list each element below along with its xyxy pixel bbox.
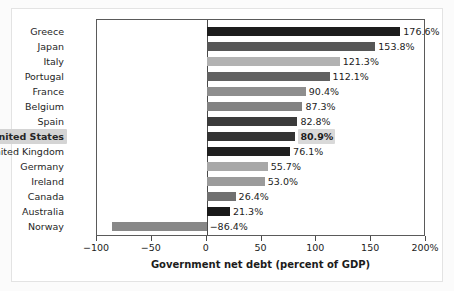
bar-row: Greece176.6% <box>97 24 424 39</box>
bar-portugal <box>207 72 330 81</box>
bar-row: Spain82.8% <box>97 114 424 129</box>
category-label-united-states: United States <box>0 129 67 144</box>
bar-greece <box>207 27 401 36</box>
bar-row: Australia21.3% <box>97 204 424 219</box>
bar-row: Canada26.4% <box>97 189 424 204</box>
category-label-ireland: Ireland <box>0 174 64 189</box>
x-tick-label: 200% <box>411 242 438 253</box>
category-label-germany: Germany <box>0 159 64 174</box>
bar-australia <box>207 207 230 216</box>
bar-row: Norway−86.4% <box>97 219 424 234</box>
category-label-greece: Greece <box>0 24 64 39</box>
bar-row: Portugal112.1% <box>97 69 424 84</box>
bar-row: Japan153.8% <box>97 39 424 54</box>
category-label-italy: Italy <box>0 54 64 69</box>
value-label-germany: 55.7% <box>271 159 301 174</box>
x-tick-label: −100 <box>83 242 109 253</box>
value-label-france: 90.4% <box>309 84 339 99</box>
value-label-belgium: 87.3% <box>305 99 335 114</box>
x-tick <box>206 236 207 241</box>
x-axis-title: Government net debt (percent of GDP) <box>96 259 425 270</box>
bar-germany <box>207 162 268 171</box>
value-label-australia: 21.3% <box>233 204 263 219</box>
value-label-canada: 26.4% <box>239 189 269 204</box>
bar-japan <box>207 42 376 51</box>
value-label-portugal: 112.1% <box>333 69 369 84</box>
bar-ireland <box>207 177 265 186</box>
x-tick-label: 100 <box>306 242 324 253</box>
x-tick-label: −50 <box>141 242 161 253</box>
value-label-united-states: 80.9% <box>298 129 335 144</box>
bar-italy <box>207 57 340 66</box>
bar-belgium <box>207 102 303 111</box>
bar-france <box>207 87 306 96</box>
category-label-australia: Australia <box>0 204 64 219</box>
bar-norway <box>112 222 207 231</box>
value-label-italy: 121.3% <box>343 54 379 69</box>
x-tick <box>370 236 371 241</box>
bar-row: United Kingdom76.1% <box>97 144 424 159</box>
category-label-norway: Norway <box>0 219 64 234</box>
x-tick <box>425 236 426 241</box>
bar-row: Germany55.7% <box>97 159 424 174</box>
bar-row: Belgium87.3% <box>97 99 424 114</box>
bar-spain <box>207 117 298 126</box>
value-label-norway: −86.4% <box>210 219 248 234</box>
bar-row: United States80.9% <box>97 129 424 144</box>
bar-row: Italy121.3% <box>97 54 424 69</box>
value-label-ireland: 53.0% <box>268 174 298 189</box>
bar-row: Ireland53.0% <box>97 174 424 189</box>
bar-row: France90.4% <box>97 84 424 99</box>
plot-area: Greece176.6%Japan153.8%Italy121.3%Portug… <box>96 19 425 236</box>
bar-united-kingdom <box>207 147 290 156</box>
bar-canada <box>207 192 236 201</box>
category-label-united-kingdom: United Kingdom <box>0 144 64 159</box>
category-label-japan: Japan <box>0 39 64 54</box>
chart-card: Greece176.6%Japan153.8%Italy121.3%Portug… <box>0 0 454 291</box>
category-label-canada: Canada <box>0 189 64 204</box>
category-label-portugal: Portugal <box>0 69 64 84</box>
x-tick-label: 0 <box>203 242 209 253</box>
x-tick-label: 50 <box>254 242 266 253</box>
x-tick <box>96 236 97 241</box>
category-label-belgium: Belgium <box>0 99 64 114</box>
x-tick-label: 150 <box>361 242 379 253</box>
category-label-spain: Spain <box>0 114 64 129</box>
value-label-greece: 176.6% <box>403 24 439 39</box>
value-label-united-kingdom: 76.1% <box>293 144 323 159</box>
value-label-japan: 153.8% <box>378 39 414 54</box>
category-label-france: France <box>0 84 64 99</box>
value-label-spain: 82.8% <box>300 114 330 129</box>
x-tick <box>315 236 316 241</box>
bar-united-states <box>207 132 296 141</box>
x-tick <box>261 236 262 241</box>
x-tick <box>151 236 152 241</box>
